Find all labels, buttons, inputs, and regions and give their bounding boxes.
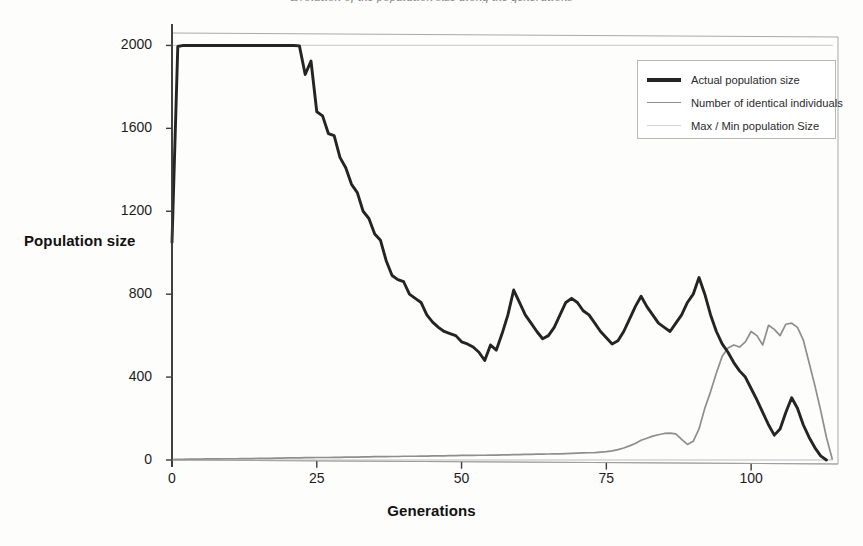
legend-label-max-min-population-size: Max / Min population Size — [691, 120, 819, 132]
series-identical-individuals — [172, 323, 832, 459]
legend-item-max-min-population-size: Max / Min population Size — [646, 114, 827, 137]
legend-box: Actual population size Number of identic… — [637, 60, 836, 139]
figure-container: Evolution of the population size along t… — [0, 0, 863, 546]
legend-key-identical-individuals — [646, 102, 682, 104]
legend-item-identical-individuals: Number of identical individuals — [646, 91, 827, 114]
legend-key-actual-population-size — [646, 78, 682, 82]
line-identical-individuals — [172, 323, 832, 459]
legend-item-actual-population-size: Actual population size — [646, 68, 827, 91]
legend-label-actual-population-size: Actual population size — [691, 74, 800, 86]
legend-label-identical-individuals: Number of identical individuals — [691, 97, 843, 109]
legend-key-max-min-population-size — [646, 125, 682, 126]
